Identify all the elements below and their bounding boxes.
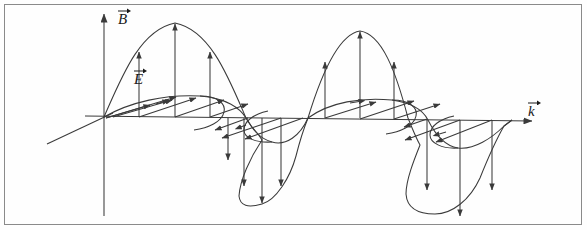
b-vector-label-text: B [118, 11, 127, 27]
depth-axis [47, 113, 113, 144]
e-loop-back-1 [194, 96, 224, 130]
e-field-wave [104, 96, 512, 149]
e-loop-back-2 [244, 111, 272, 142]
e-vector-label-text: E [134, 71, 143, 87]
em-wave-figure: B E k [0, 0, 587, 230]
e-vector-label: E [134, 72, 143, 87]
b-vector-label: B [118, 12, 127, 27]
em-wave-drawing [0, 0, 587, 230]
vector-arrow-accent [528, 99, 535, 105]
vector-arrow-accent [134, 67, 143, 73]
k-vector-label-text: k [528, 103, 535, 119]
k-vector-label: k [528, 104, 535, 119]
vector-arrow-accent [118, 7, 127, 13]
